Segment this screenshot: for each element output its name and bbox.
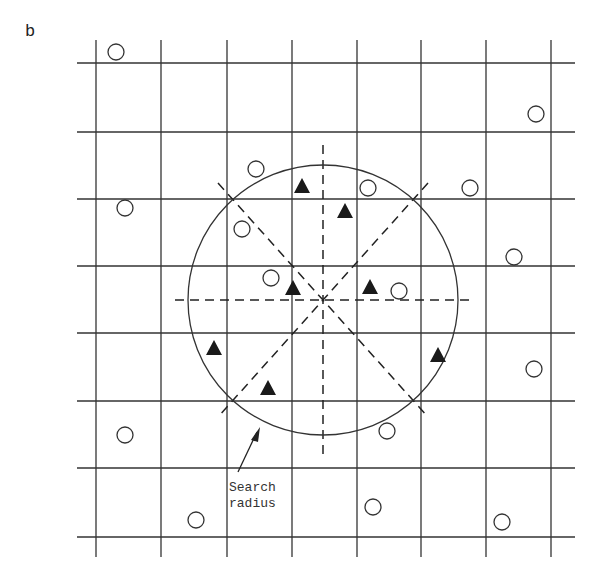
open-circle-point xyxy=(263,270,279,286)
triangle-point xyxy=(430,347,446,362)
open-circle-point xyxy=(528,106,544,122)
open-circle-point xyxy=(506,249,522,265)
search-radius-diagram xyxy=(0,0,593,574)
open-circle-point xyxy=(117,200,133,216)
search-radius-label: Search radius xyxy=(229,480,276,512)
open-circle-point xyxy=(494,514,510,530)
annotation-arrow xyxy=(238,427,260,472)
open-circle-point xyxy=(234,221,250,237)
open-circle-point xyxy=(117,427,133,443)
triangle-point xyxy=(285,280,301,295)
open-circle-point xyxy=(360,180,376,196)
open-circle-point xyxy=(379,423,395,439)
triangle-point xyxy=(260,380,276,395)
open-circle-point xyxy=(108,44,124,60)
open-circle-point xyxy=(188,512,204,528)
triangle-point xyxy=(337,203,353,218)
grid-lines xyxy=(77,40,575,557)
open-circle-point xyxy=(526,361,542,377)
open-circle-point xyxy=(365,499,381,515)
triangle-point xyxy=(206,340,222,355)
open-circle-point xyxy=(248,161,264,177)
data-points xyxy=(108,44,544,530)
annotation-line-1: Search xyxy=(229,480,276,496)
open-circle-point xyxy=(462,180,478,196)
open-circle-point xyxy=(391,283,407,299)
triangle-point xyxy=(294,178,310,193)
search-spokes xyxy=(175,145,473,460)
annotation-line-2: radius xyxy=(229,496,276,512)
triangle-point xyxy=(362,279,378,294)
